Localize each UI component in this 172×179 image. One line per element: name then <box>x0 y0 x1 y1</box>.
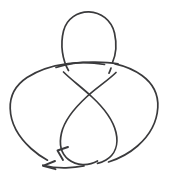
knot-svg-canvas <box>0 0 172 179</box>
outer-oval-arrow <box>43 161 56 169</box>
upper-loop-right-stub <box>109 68 111 73</box>
teardrop-left-strand <box>60 73 116 165</box>
outer-oval-left-arc <box>10 63 104 161</box>
teardrop-right-strand <box>64 72 117 163</box>
knot-diagram-figure: Knot diagram Oriented knot projection co… <box>0 0 172 179</box>
outer-oval-arrowhead <box>43 161 56 169</box>
